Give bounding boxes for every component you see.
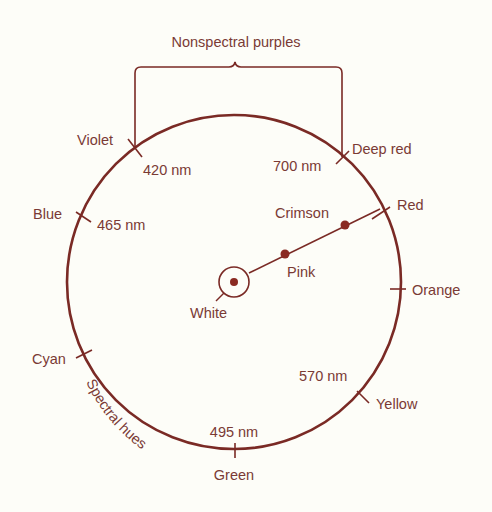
orange-label: Orange: [412, 282, 460, 298]
pink-dot: [281, 250, 290, 259]
blue-wavelength: 465 nm: [97, 217, 145, 233]
red-label: Red: [397, 197, 424, 213]
blue-label: Blue: [33, 206, 62, 222]
deep-red-label: Deep red: [352, 141, 412, 157]
green-wavelength: 495 nm: [210, 424, 258, 440]
green-label: Green: [214, 467, 254, 483]
pink-label: Pink: [287, 264, 316, 280]
cyan-label: Cyan: [32, 351, 66, 367]
crimson-dot: [341, 221, 350, 230]
crimson-label: Crimson: [275, 205, 329, 221]
violet-wavelength: 420 nm: [143, 162, 191, 178]
nonspectral-bracket: [135, 62, 342, 157]
deep-red-wavelength: 700 nm: [273, 158, 321, 174]
white-dot: [230, 278, 238, 286]
white-leader: [216, 293, 224, 301]
yellow-wavelength: 570 nm: [299, 368, 347, 384]
white-label: White: [190, 305, 227, 321]
spectral-hues-label: Spectral hues: [83, 376, 150, 452]
violet-label: Violet: [77, 132, 113, 148]
yellow-label: Yellow: [376, 396, 418, 412]
nonspectral-purples-label: Nonspectral purples: [172, 34, 301, 50]
yellow-tick: [357, 391, 369, 403]
color-circle-diagram: Nonspectral purples Violet 420 nm Deep r…: [0, 0, 492, 512]
